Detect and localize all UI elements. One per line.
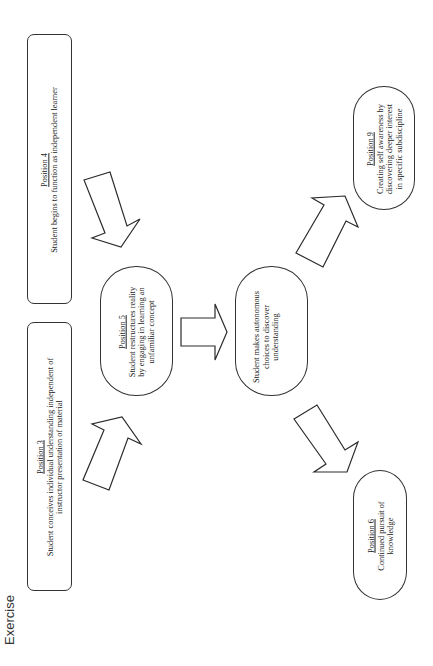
autonomous-choices-text: Student makes autonomous choices to disc… <box>252 291 281 383</box>
arrow-autonomous-to-p9 <box>296 196 358 267</box>
position-4-line-1: Student begins to function as independen… <box>50 87 60 253</box>
position-6-text: Position 6 Continued pursuit of knowledg… <box>367 501 396 570</box>
position-9-line-1: Creating self awareness by <box>375 104 385 194</box>
position-5-title: Position 5 <box>118 287 128 377</box>
position-5-line-2: by engaging in learning an <box>137 287 147 377</box>
position-4-text: Position 4 Student begins to function as… <box>40 87 59 253</box>
autonomous-choices-oval: Student makes autonomous choices to disc… <box>235 266 308 396</box>
position-3-line-1: Student conceives individual understandi… <box>45 358 55 556</box>
position-3-title: Position 3 <box>36 358 46 556</box>
exercise-label: Exercise <box>3 595 18 645</box>
position-6-title: Position 6 <box>367 501 377 570</box>
position-3-box: Position 3 Student conceives individual … <box>27 322 72 591</box>
position-3-line-2: instructor presentation of material <box>55 358 65 556</box>
position-9-line-3: in specific subdiscipline <box>395 104 405 194</box>
position-5-line-3: unfamiliar concept <box>147 287 157 377</box>
arrow-p4-to-p5 <box>84 172 140 247</box>
autonomous-line-2: choices to discover <box>261 291 271 383</box>
position-5-oval: Position 5 Student restructures reality … <box>100 266 173 396</box>
autonomous-line-1: Student makes autonomous <box>252 291 262 383</box>
position-6-oval: Position 6 Continued pursuit of knowledg… <box>353 470 407 600</box>
position-5-line-1: Student restructures reality <box>127 287 137 377</box>
position-6-line-1: Continued pursuit of <box>376 501 386 570</box>
position-9-title: Position 9 <box>366 104 376 194</box>
arrow-p5-to-autonomous <box>181 304 227 360</box>
arrow-p3-to-p5 <box>83 417 141 490</box>
arrow-autonomous-to-p6 <box>294 405 358 472</box>
position-9-oval: Position 9 Creating self awareness by di… <box>353 86 415 210</box>
position-3-text: Position 3 Student conceives individual … <box>36 358 65 556</box>
position-4-box: Position 4 Student begins to function as… <box>27 34 72 304</box>
position-9-line-2: discovering deeper interest <box>385 104 395 194</box>
position-9-text: Position 9 Creating self awareness by di… <box>366 104 405 194</box>
position-6-line-2: knowledge <box>386 501 396 570</box>
autonomous-line-3: understanding <box>271 291 281 383</box>
position-4-title: Position 4 <box>40 87 50 253</box>
position-5-text: Position 5 Student restructures reality … <box>118 287 157 377</box>
